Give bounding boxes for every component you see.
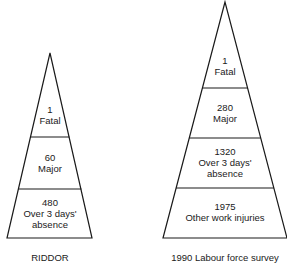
tier-value: 1975 — [175, 201, 275, 212]
tier-label: Over 3 days' — [10, 208, 90, 219]
riddor-tier-over3days: 480 Over 3 days' absence — [10, 197, 90, 230]
tier-value: 280 — [195, 102, 255, 113]
lfs-tier-fatal: 1 Fatal — [195, 55, 255, 77]
tier-label: Fatal — [20, 115, 80, 126]
lfs-caption: 1990 Labour force survey — [160, 252, 287, 263]
tier-value: 1 — [20, 104, 80, 115]
tier-label: Over 3 days' — [185, 157, 265, 168]
tier-value: 60 — [20, 152, 80, 163]
tier-value: 480 — [10, 197, 90, 208]
tier-label-line2: absence — [10, 219, 90, 230]
pyramid-diagram — [0, 0, 287, 272]
lfs-tier-over3days: 1320 Over 3 days' absence — [185, 146, 265, 179]
lfs-tier-major: 280 Major — [195, 102, 255, 124]
tier-label: Fatal — [195, 66, 255, 77]
riddor-tier-fatal: 1 Fatal — [20, 104, 80, 126]
tier-value: 1320 — [185, 146, 265, 157]
riddor-caption: RIDDOR — [10, 252, 90, 263]
tier-label: Other work injuries — [175, 212, 275, 223]
tier-label: Major — [195, 113, 255, 124]
tier-value: 1 — [195, 55, 255, 66]
riddor-tier-major: 60 Major — [20, 152, 80, 174]
tier-label: Major — [20, 163, 80, 174]
tier-label-line2: absence — [185, 168, 265, 179]
lfs-tier-other: 1975 Other work injuries — [175, 201, 275, 223]
